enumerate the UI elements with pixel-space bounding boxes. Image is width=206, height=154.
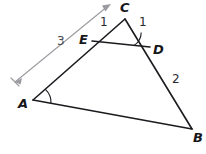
vertex-label-b: B bbox=[193, 131, 203, 144]
measure-label-ac: 3 bbox=[57, 35, 65, 47]
measure-label-db: 2 bbox=[172, 73, 180, 85]
vertex-label-a: A bbox=[18, 97, 28, 110]
vertex-label-e: E bbox=[79, 33, 88, 46]
vertex-label-c: C bbox=[120, 1, 130, 14]
vertex-label-d: D bbox=[153, 43, 164, 56]
measure-label-ce: 1 bbox=[100, 16, 108, 28]
angle-arc-at-a bbox=[45, 89, 51, 103]
edge-c-to-b bbox=[125, 19, 192, 129]
edge-a-to-b bbox=[33, 100, 192, 129]
geometry-figure: A B C D E 1 1 2 3 bbox=[0, 0, 206, 154]
measure-label-cd: 1 bbox=[139, 16, 147, 28]
edge-e-to-d bbox=[92, 41, 150, 47]
